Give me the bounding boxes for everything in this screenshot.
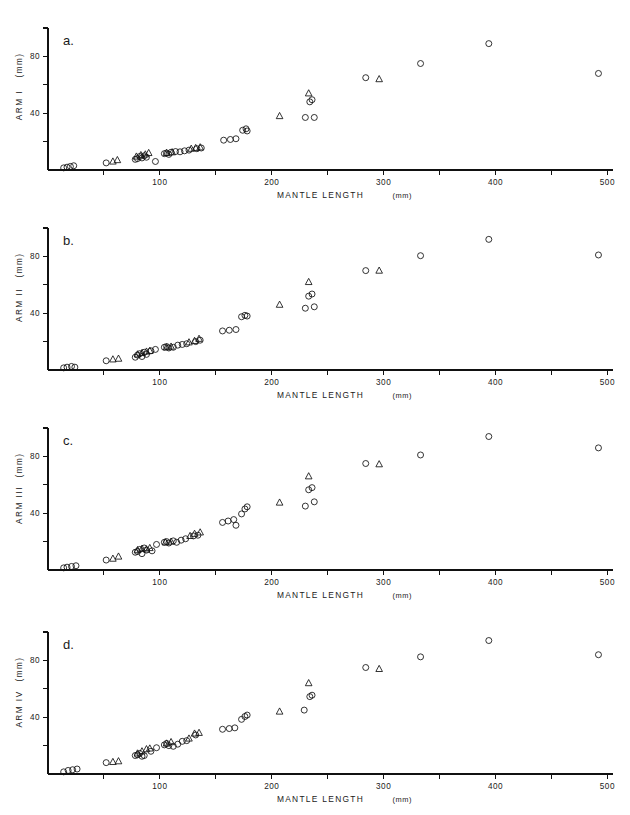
x-axis-title-unit: (mm) — [393, 391, 413, 400]
data-point-triangle — [305, 473, 312, 479]
y-tick-label: 80 — [30, 656, 40, 665]
data-point-circle — [418, 253, 424, 259]
y-tick-label: 80 — [30, 252, 40, 261]
x-tick-label: 300 — [376, 378, 391, 387]
x-axis-title-unit: (mm) — [393, 591, 413, 600]
figure-multi-panel-scatter: 1002003004005004080MANTLE LENGTH(mm)ARM … — [0, 0, 630, 815]
data-point-triangle — [115, 355, 122, 361]
data-point-triangle — [305, 278, 312, 284]
y-tick-label: 80 — [30, 452, 40, 461]
data-point-circle — [486, 638, 492, 644]
x-tick-label: 100 — [152, 578, 167, 587]
data-point-circle — [302, 305, 308, 311]
y-axis-title: ARM I — [15, 90, 24, 120]
data-point-triangle — [376, 267, 383, 273]
chart-panel-c: 1002003004005004080MANTLE LENGTH(mm)ARM … — [0, 400, 630, 600]
data-point-triangle — [376, 665, 383, 671]
data-point-circle — [302, 114, 308, 120]
data-point-circle — [221, 137, 227, 143]
data-point-circle — [486, 41, 492, 47]
data-point-circle — [302, 503, 308, 509]
data-point-triangle — [305, 90, 312, 96]
series-triangles — [110, 76, 383, 165]
x-tick-label: 100 — [152, 178, 167, 187]
data-point-circle — [595, 445, 601, 451]
y-axis-title-group: ARM III(mm) — [15, 452, 24, 523]
data-point-circle — [103, 358, 109, 364]
x-axis-title: MANTLE LENGTH — [277, 794, 364, 804]
y-axis-title-unit: (mm) — [15, 656, 24, 681]
panel-letter: c. — [63, 433, 73, 448]
data-point-circle — [595, 70, 601, 76]
data-point-circle — [103, 557, 109, 563]
plot-area: 1002003004005004080MANTLE LENGTH(mm)ARM … — [0, 604, 630, 804]
panel-letter: b. — [63, 233, 74, 248]
data-point-circle — [227, 136, 233, 142]
data-point-circle — [301, 707, 307, 713]
x-tick-label: 300 — [376, 782, 391, 791]
x-tick-label: 200 — [264, 178, 279, 187]
series-circles — [61, 434, 602, 571]
x-tick-label: 100 — [152, 378, 167, 387]
data-point-circle — [154, 541, 160, 547]
chart-panel-a: 1002003004005004080MANTLE LENGTH(mm)ARM … — [0, 0, 630, 200]
plot-area: 1002003004005004080MANTLE LENGTH(mm)ARM … — [0, 400, 630, 600]
data-point-triangle — [276, 499, 283, 505]
series-circles — [61, 41, 602, 171]
data-point-circle — [363, 461, 369, 467]
y-axis-title-unit: (mm) — [15, 452, 24, 477]
plot-area: 1002003004005004080MANTLE LENGTH(mm)ARM … — [0, 0, 630, 200]
panel-letter: d. — [63, 637, 74, 652]
data-point-circle — [154, 745, 160, 751]
data-point-circle — [363, 665, 369, 671]
series-triangles — [110, 461, 383, 562]
data-point-triangle — [276, 708, 283, 714]
data-point-circle — [311, 499, 317, 505]
x-tick-label: 400 — [488, 178, 503, 187]
data-point-circle — [595, 652, 601, 658]
data-point-circle — [244, 128, 250, 134]
data-point-circle — [311, 114, 317, 120]
series-triangles — [110, 267, 383, 362]
data-point-circle — [595, 252, 601, 258]
data-point-triangle — [305, 680, 312, 686]
series-triangles — [110, 665, 383, 764]
data-point-circle — [231, 517, 237, 523]
data-point-circle — [226, 726, 232, 732]
data-point-circle — [233, 136, 239, 142]
data-point-circle — [226, 327, 232, 333]
y-axis-title: ARM III — [15, 486, 24, 524]
x-axis-title: MANTLE LENGTH — [277, 590, 364, 600]
data-point-circle — [363, 268, 369, 274]
x-tick-label: 300 — [376, 178, 391, 187]
data-point-circle — [152, 158, 158, 164]
data-point-circle — [220, 328, 226, 334]
data-point-circle — [486, 236, 492, 242]
x-tick-label: 500 — [600, 378, 615, 387]
data-point-circle — [232, 725, 238, 731]
y-axis-title-unit: (mm) — [15, 252, 24, 277]
data-point-circle — [418, 452, 424, 458]
data-point-triangle — [115, 553, 122, 559]
data-point-triangle — [376, 76, 383, 82]
x-tick-label: 500 — [600, 578, 615, 587]
data-point-triangle — [196, 335, 203, 341]
x-tick-label: 400 — [488, 782, 503, 791]
data-point-triangle — [376, 461, 383, 467]
x-axis-title-unit: (mm) — [393, 795, 413, 804]
x-tick-label: 100 — [152, 782, 167, 791]
x-tick-label: 200 — [264, 378, 279, 387]
y-tick-label: 40 — [30, 309, 40, 318]
data-point-circle — [225, 518, 231, 524]
x-tick-label: 400 — [488, 378, 503, 387]
x-axis-title: MANTLE LENGTH — [277, 190, 364, 200]
x-tick-label: 500 — [600, 782, 615, 791]
y-tick-label: 40 — [30, 713, 40, 722]
data-point-circle — [418, 654, 424, 660]
data-point-triangle — [276, 301, 283, 307]
data-point-circle — [220, 519, 226, 525]
x-tick-label: 200 — [264, 578, 279, 587]
data-point-circle — [418, 61, 424, 67]
y-tick-label: 40 — [30, 509, 40, 518]
data-point-circle — [103, 160, 109, 166]
